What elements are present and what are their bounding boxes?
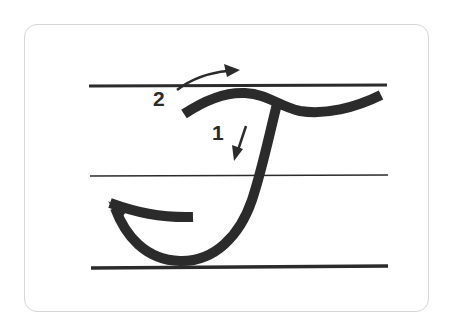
- letter-stem-stroke: [115, 104, 277, 261]
- letter-illustration: [0, 0, 452, 330]
- stroke-1-label: 1: [212, 122, 224, 143]
- stroke-1-arrow-shaft: [238, 126, 246, 150]
- stroke-2-arrow-head-icon: [224, 64, 240, 77]
- base-guide-line: [91, 266, 388, 268]
- stroke-1-arrow-head-icon: [232, 145, 243, 161]
- top-guide-line: [89, 85, 387, 86]
- letter-crossbar-stroke: [184, 93, 381, 114]
- stroke-2-label: 2: [153, 88, 165, 109]
- mid-guide-line: [90, 175, 388, 176]
